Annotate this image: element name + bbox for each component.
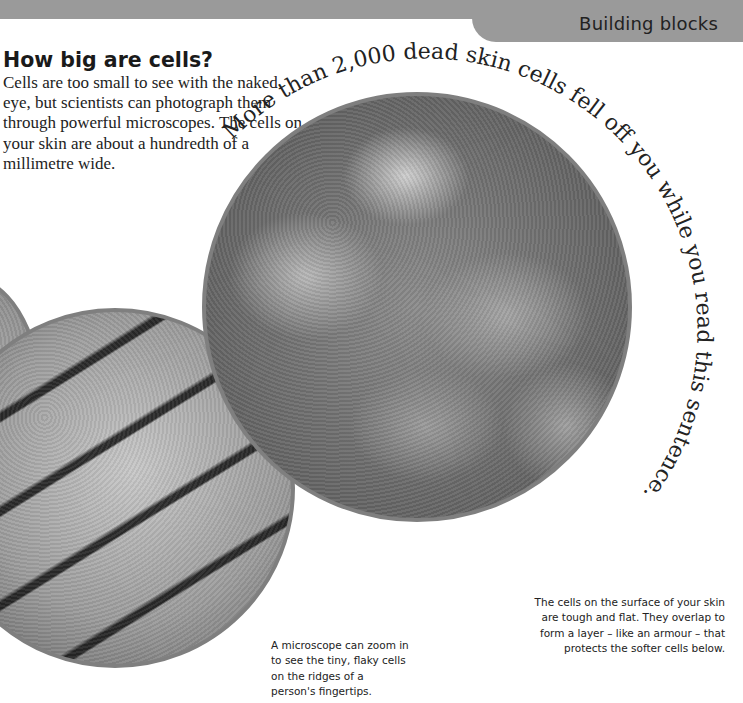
section-tab: Building blocks bbox=[472, 0, 743, 42]
skin-surface-cells-image bbox=[202, 92, 632, 522]
page-heading: How big are cells? bbox=[3, 48, 213, 72]
section-title: Building blocks bbox=[579, 13, 718, 34]
fingertip-caption: A microscope can zoom in to see the tiny… bbox=[271, 638, 411, 699]
skin-surface-caption: The cells on the surface of your skin ar… bbox=[520, 595, 725, 656]
